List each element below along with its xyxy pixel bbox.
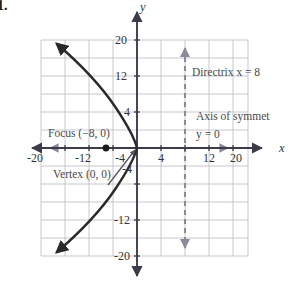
x-tick-label-neg20: -20 [27, 151, 43, 166]
x-tick-label-12: 12 [203, 151, 215, 166]
x-tick-label-neg12: -12 [75, 151, 91, 166]
y-tick-label-4: 4 [124, 105, 130, 120]
directrix-label: Directrix x = 8 [192, 66, 260, 78]
y-tick-label-neg12: -12 [114, 213, 130, 228]
y-tick-label-neg20: -20 [114, 249, 130, 264]
axis-of-symmetry-label: Axis of symmet [196, 110, 269, 122]
x-tick-label-4: 4 [158, 151, 164, 166]
y-tick-label-12: 12 [115, 69, 127, 84]
y-tick-label-20: 20 [115, 33, 127, 48]
y-tick-label-neg4: -4 [122, 162, 132, 177]
focus-point [103, 145, 110, 152]
parabola-graph [0, 0, 297, 284]
y-axis-label: y [140, 0, 146, 15]
focus-label: Focus (−8, 0) [48, 127, 110, 139]
x-tick-label-20: 20 [230, 151, 242, 166]
axis-of-symmetry-value: y = 0 [196, 128, 220, 140]
x-axis-label: x [279, 141, 285, 156]
vertex-label: Vertex (0, 0) [53, 168, 111, 180]
